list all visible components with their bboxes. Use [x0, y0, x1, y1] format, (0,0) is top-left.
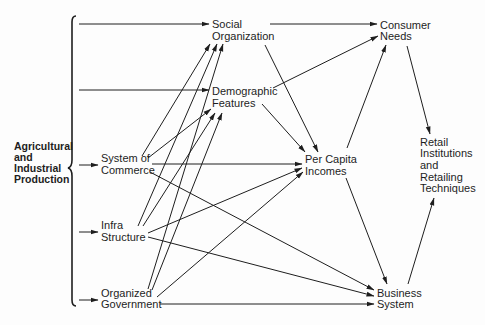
edge-demographic-percapita: [262, 104, 305, 152]
edge-govt-social: [148, 44, 223, 289]
edge-demographic-consumer: [273, 36, 378, 88]
edge-percapita-business: [346, 178, 387, 284]
node-retail-institutions: Retail Institutions and Retailing Techni…: [420, 136, 476, 194]
node-per-capita-incomes: Per Capita Incomes: [305, 153, 360, 177]
edge-commerce-business: [150, 172, 374, 290]
node-agricultural-production: Agricultural and Industrial Production: [14, 140, 76, 185]
node-organized-government: Organized Government: [101, 287, 162, 310]
node-demographic-features: Demographic Features: [212, 85, 280, 109]
edge-consumer-retail: [407, 46, 430, 134]
edge-infra-business: [148, 237, 374, 296]
diagram-svg: Agricultural and Industrial Production S…: [0, 0, 485, 325]
node-consumer-needs: Consumer Needs: [380, 19, 434, 42]
flow-diagram: Agricultural and Industrial Production S…: [0, 0, 485, 325]
edge-govt-percapita: [157, 172, 303, 297]
edge-percapita-consumer: [347, 45, 386, 148]
node-social-organization: Social Organization: [212, 18, 274, 42]
edge-business-retail: [408, 198, 434, 284]
edge-infra-social: [138, 44, 217, 226]
node-business-system: Business System: [377, 287, 425, 310]
left-brace: [68, 16, 76, 306]
edge-govt-demographic: [152, 113, 222, 290]
edge-infra-percapita: [148, 168, 302, 233]
node-system-of-commerce: System of Commerce: [101, 152, 155, 176]
edge-social-percapita: [265, 45, 318, 152]
